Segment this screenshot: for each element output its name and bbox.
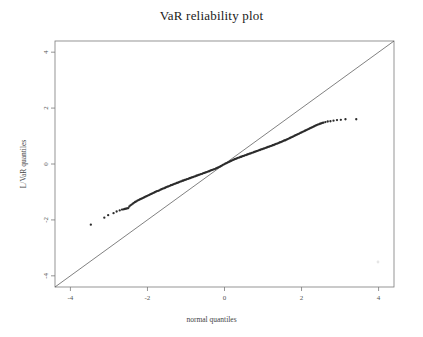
x-axis-ticks: -4-2024 <box>67 287 380 302</box>
qq-plot-figure: VaR reliability plot -4-2024 -4-2024 nor… <box>0 0 423 337</box>
x-axis-label: normal quantiles <box>186 315 236 324</box>
x-tick-label: 0 <box>223 294 227 302</box>
data-point <box>112 212 114 214</box>
y-tick-label: -4 <box>42 272 50 278</box>
x-tick-label: -4 <box>67 294 73 302</box>
y-axis-ticks: -4-2024 <box>42 50 55 279</box>
data-point <box>336 119 338 121</box>
x-tick-label: 4 <box>377 294 381 302</box>
data-point <box>355 118 357 120</box>
data-point <box>344 118 346 120</box>
data-point <box>340 119 342 121</box>
data-point <box>327 120 329 122</box>
y-tick-label: 2 <box>42 106 50 110</box>
faint-artifact-mark <box>377 261 380 264</box>
data-point <box>107 214 109 216</box>
data-point <box>324 121 326 123</box>
x-tick-label: 2 <box>300 294 304 302</box>
data-point <box>115 210 117 212</box>
data-point <box>332 120 334 122</box>
data-point <box>329 120 331 122</box>
data-point <box>90 224 92 226</box>
y-tick-label: -2 <box>42 216 50 222</box>
data-points <box>90 118 358 226</box>
data-point <box>119 209 121 211</box>
x-tick-label: -2 <box>145 294 151 302</box>
data-point <box>103 217 105 219</box>
data-point <box>322 121 324 123</box>
chart-canvas: -4-2024 -4-2024 normal quantiles L/VaR q… <box>0 0 423 337</box>
y-tick-label: 4 <box>42 50 50 54</box>
y-axis-label: L/VaR quantiles <box>19 140 28 189</box>
y-tick-label: 0 <box>42 162 50 166</box>
